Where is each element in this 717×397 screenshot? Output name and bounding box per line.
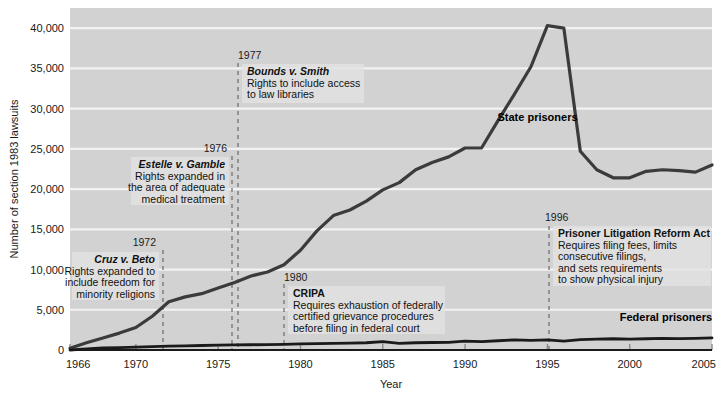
annotation-year-cripa: 1980 <box>284 271 308 283</box>
x-tick-label: 1975 <box>206 358 230 370</box>
annotation-line-cruz-v-beto: Rights expanded to <box>65 265 156 277</box>
series-label-state-prisoners: State prisoners <box>497 111 577 123</box>
y-axis-tick-labels: 05,00010,00015,00020,00025,00030,00035,0… <box>30 22 64 356</box>
y-tick-label: 35,000 <box>30 62 64 74</box>
section-1983-lawsuits-line-chart: 05,00010,00015,00020,00025,00030,00035,0… <box>0 0 717 397</box>
annotation-title-cripa: CRIPA <box>293 287 325 299</box>
annotation-line-cruz-v-beto: minority religions <box>76 288 155 300</box>
annotation-title-bounds-v-smith: Bounds v. Smith <box>247 65 329 77</box>
annotation-year-plra: 1996 <box>545 211 569 223</box>
annotation-line-plra: to show physical injury <box>558 273 664 285</box>
y-tick-label: 0 <box>58 344 64 356</box>
x-tick-label: 1966 <box>66 358 90 370</box>
series-label-federal-prisoners: Federal prisoners <box>620 311 712 323</box>
x-axis-tick-labels: 196619701975198019851990199520002005 <box>66 358 716 370</box>
x-tick-label: 2005 <box>692 358 716 370</box>
chart-container: 05,00010,00015,00020,00025,00030,00035,0… <box>0 0 717 397</box>
annotation-line-bounds-v-smith: to law libraries <box>247 88 314 100</box>
annotation-line-estelle-v-gamble: medical treatment <box>142 193 226 205</box>
annotation-line-plra: Requires filing fees, limits <box>558 239 677 251</box>
annotation-year-estelle-v-gamble: 1976 <box>204 142 228 154</box>
y-tick-label: 10,000 <box>30 264 64 276</box>
annotation-line-estelle-v-gamble: Rights expanded in <box>135 170 225 182</box>
annotation-line-cripa: Requires exhaustion of federally <box>293 299 444 311</box>
x-axis-title: Year <box>380 378 403 390</box>
y-tick-label: 20,000 <box>30 183 64 195</box>
y-tick-label: 5,000 <box>36 304 64 316</box>
annotation-line-plra: and sets requirements <box>558 262 662 274</box>
annotation-year-bounds-v-smith: 1977 <box>238 49 262 61</box>
annotation-year-cruz-v-beto: 1972 <box>133 236 157 248</box>
x-tick-label: 1985 <box>371 358 395 370</box>
x-tick-label: 1990 <box>453 358 477 370</box>
y-tick-label: 40,000 <box>30 22 64 34</box>
annotation-line-estelle-v-gamble: the area of adequate <box>128 181 225 193</box>
annotation-line-cripa: certified grievance procedures <box>293 310 434 322</box>
y-axis-title: Number of section 1983 lawsuits <box>8 99 20 258</box>
annotation-title-plra: Prisoner Litigation Reform Act <box>558 227 710 239</box>
annotation-line-bounds-v-smith: Rights to include access <box>247 77 360 89</box>
annotation-line-cruz-v-beto: include freedom for <box>65 276 155 288</box>
y-tick-label: 25,000 <box>30 143 64 155</box>
y-tick-label: 15,000 <box>30 223 64 235</box>
annotation-title-estelle-v-gamble: Estelle v. Gamble <box>139 158 226 170</box>
x-tick-label: 1970 <box>124 358 148 370</box>
annotation-line-plra: consecutive filings, <box>558 250 646 262</box>
annotation-title-cruz-v-beto: Cruz v. Beto <box>94 253 155 265</box>
x-tick-label: 2000 <box>617 358 641 370</box>
annotation-line-cripa: before filing in federal court <box>293 322 420 334</box>
y-tick-label: 30,000 <box>30 103 64 115</box>
x-tick-label: 1980 <box>288 358 312 370</box>
x-tick-label: 1995 <box>535 358 559 370</box>
